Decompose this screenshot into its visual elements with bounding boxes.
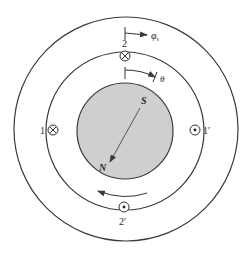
- conductor-2-cross-icon: [120, 51, 130, 61]
- conductor-1-cross-icon: [48, 125, 58, 135]
- rotor: [77, 83, 173, 179]
- conductor-1-label: 1: [40, 125, 45, 136]
- theta-label: θ: [160, 74, 165, 84]
- north-pole-label: N: [98, 162, 107, 173]
- machine-diagram: S N 1 1′ 2 2′: [0, 0, 243, 258]
- phi-s-label: φs: [151, 30, 160, 42]
- conductor-2prime-dot-icon: [119, 202, 129, 212]
- conductor-1prime-label: 1′: [203, 125, 210, 136]
- phi-s-angle-arrow-icon: [125, 27, 147, 40]
- conductor-2prime-label: 2′: [119, 216, 126, 227]
- rotation-direction-arrow-icon: [98, 191, 147, 197]
- theta-angle-arrow-icon: [125, 67, 157, 82]
- conductor-1prime-dot-icon: [190, 125, 200, 135]
- south-pole-label: S: [141, 95, 147, 106]
- diagram-canvas: S N 1 1′ 2 2′: [0, 0, 243, 258]
